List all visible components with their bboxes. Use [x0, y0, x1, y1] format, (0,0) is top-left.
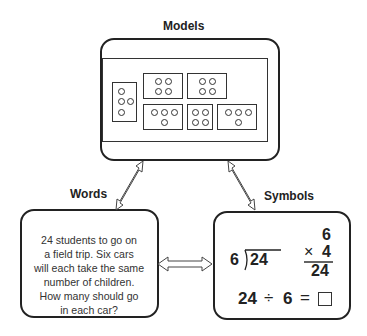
double-arrow-icon [228, 161, 255, 210]
double-arrow-icon [116, 161, 143, 210]
double-arrow-icon [158, 257, 212, 271]
diagram-lines [0, 0, 367, 336]
division-bracket-icon [245, 250, 281, 270]
